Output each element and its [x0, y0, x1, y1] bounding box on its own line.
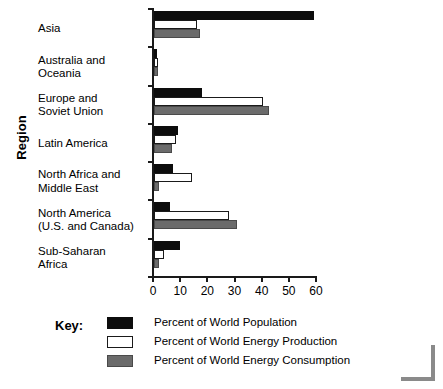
bar-group	[154, 202, 317, 229]
x-axis-tick	[315, 276, 317, 282]
category-label: Australia andOceania	[38, 54, 146, 81]
category-label: Europe andSoviet Union	[38, 92, 146, 119]
y-axis-tick	[148, 123, 153, 125]
bar-pop	[154, 11, 314, 20]
legend-swatch-prod	[107, 336, 133, 348]
x-axis-tick-label: 0	[140, 284, 166, 298]
bar-cons	[154, 67, 158, 76]
bar-prod	[154, 173, 192, 182]
bar-prod	[154, 211, 229, 220]
bar-pop	[154, 49, 157, 58]
bar-group	[154, 11, 317, 38]
legend-label: Percent of World Population	[154, 316, 297, 328]
bar-cons	[154, 259, 159, 268]
category-label-line: Sub-Saharan	[38, 245, 146, 259]
bar-cons	[154, 182, 159, 191]
bar-pop	[154, 88, 202, 97]
x-axis-tick-label: 20	[194, 284, 220, 298]
corner-mark-horizontal	[401, 377, 435, 381]
bar-prod	[154, 97, 263, 106]
category-label-line: Asia	[38, 22, 146, 36]
x-axis-tick	[261, 276, 263, 282]
category-label-line: North Africa and	[38, 168, 146, 182]
bar-prod	[154, 20, 197, 29]
x-axis-tick	[152, 276, 154, 282]
bar-pop	[154, 164, 173, 173]
category-label: Latin America	[38, 137, 146, 151]
y-axis-tick	[148, 161, 153, 163]
bar-prod	[154, 58, 158, 67]
bar-group	[154, 126, 317, 153]
category-label: North America(U.S. and Canada)	[38, 207, 146, 234]
bar-prod	[154, 250, 164, 259]
category-label-line: Europe and	[38, 92, 146, 106]
category-label: Asia	[38, 22, 146, 36]
y-axis-tick	[148, 85, 153, 87]
x-axis-tick	[206, 276, 208, 282]
plot-area	[152, 8, 320, 276]
bar-group	[154, 49, 317, 76]
category-label-line: North America	[38, 207, 146, 221]
y-axis-tick	[148, 199, 153, 201]
x-axis-tick	[179, 276, 181, 282]
x-axis-tick-label: 60	[303, 284, 329, 298]
y-axis-tick	[148, 8, 153, 10]
bar-group	[154, 88, 317, 115]
category-label-line: Latin America	[38, 137, 146, 151]
legend-title: Key:	[55, 318, 83, 333]
bar-cons	[154, 29, 200, 38]
y-axis-title: Region	[14, 93, 29, 183]
category-label-line: Africa	[38, 258, 146, 272]
bar-pop	[154, 126, 178, 135]
category-label-list: AsiaAustralia andOceaniaEurope andSoviet…	[38, 8, 146, 276]
bar-prod	[154, 135, 176, 144]
category-label-line: Middle East	[38, 182, 146, 196]
category-label-line: Soviet Union	[38, 105, 146, 119]
legend-label: Percent of World Energy Production	[154, 335, 337, 347]
category-label: Sub-SaharanAfrica	[38, 245, 146, 272]
y-axis-tick	[148, 238, 153, 240]
corner-mark-vertical	[431, 345, 435, 381]
category-label-line: Australia and	[38, 54, 146, 68]
bar-cons	[154, 144, 172, 153]
x-axis-tick-label: 50	[276, 284, 302, 298]
category-label-line: (U.S. and Canada)	[38, 220, 146, 234]
x-axis-tick-label: 30	[222, 284, 248, 298]
bar-group	[154, 164, 317, 191]
corner-registration-mark	[401, 345, 435, 381]
bar-chart-figure: Region AsiaAustralia andOceaniaEurope an…	[0, 0, 443, 389]
category-label: North Africa andMiddle East	[38, 168, 146, 195]
x-axis-tick-label: 10	[167, 284, 193, 298]
legend-swatch-cons	[107, 355, 133, 367]
bar-cons	[154, 220, 237, 229]
legend-swatch-pop	[107, 317, 133, 329]
bar-pop	[154, 241, 180, 250]
x-axis-tick	[234, 276, 236, 282]
chart-legend: Key: Percent of World PopulationPercent …	[55, 310, 385, 372]
legend-label: Percent of World Energy Consumption	[154, 354, 350, 366]
bar-pop	[154, 202, 170, 211]
category-label-line: Oceania	[38, 67, 146, 81]
bar-group	[154, 241, 317, 268]
bar-cons	[154, 106, 269, 115]
y-axis-tick	[148, 46, 153, 48]
x-axis-tick	[288, 276, 290, 282]
x-axis-tick-label: 40	[249, 284, 275, 298]
